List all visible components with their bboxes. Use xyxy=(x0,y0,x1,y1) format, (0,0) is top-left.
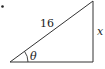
opposite-label: x xyxy=(97,25,104,38)
hypotenuse xyxy=(10,1,93,62)
triangle-diagram: 16 x θ xyxy=(0,0,105,69)
angle-label: θ xyxy=(30,50,37,63)
angle-arc xyxy=(25,51,29,62)
bullet-dot xyxy=(1,5,4,8)
hypotenuse-label: 16 xyxy=(40,17,54,30)
